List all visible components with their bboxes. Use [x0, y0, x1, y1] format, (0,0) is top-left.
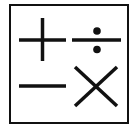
calculator-operations-icon: [0, 0, 133, 130]
icon-frame: [10, 5, 128, 123]
